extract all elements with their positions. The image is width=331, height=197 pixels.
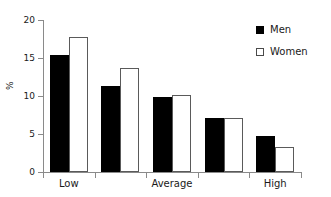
x-tick-label: High [249,178,301,190]
x-tick-mark [301,173,302,178]
bar-men-group-2 [101,86,120,172]
x-tick-label: Low [43,178,95,190]
chart-legend: Men Women [256,22,308,66]
bar-women-group-2 [120,68,139,172]
legend-label-women: Women [270,47,308,57]
bar-men-group-3 [153,97,172,172]
open-square-icon [256,48,264,56]
legend-item-women: Women [256,44,308,60]
y-tick-label: 10 [24,92,35,101]
x-tick-mark [95,173,96,178]
bar-women-group-5 [275,147,294,172]
x-tick-label: Average [146,178,198,190]
bar-women-group-1 [69,37,88,172]
bar-women-group-3 [172,95,191,172]
bar-chart: % 05101520 LowAverageHigh Men Women [0,0,331,197]
y-tick-label: 5 [29,130,35,139]
y-axis-title: % [6,81,15,90]
x-tick-mark [198,173,199,178]
bar-men-group-4 [205,118,224,172]
y-tick-label: 15 [24,54,35,63]
filled-square-icon [256,26,264,34]
bar-men-group-5 [256,136,275,172]
bar-women-group-4 [224,118,243,172]
legend-label-men: Men [270,25,291,35]
y-tick-label: 0 [29,168,35,177]
y-tick-label: 20 [24,16,35,25]
legend-item-men: Men [256,22,308,38]
bar-men-group-1 [50,55,69,172]
x-axis-line [43,172,302,173]
